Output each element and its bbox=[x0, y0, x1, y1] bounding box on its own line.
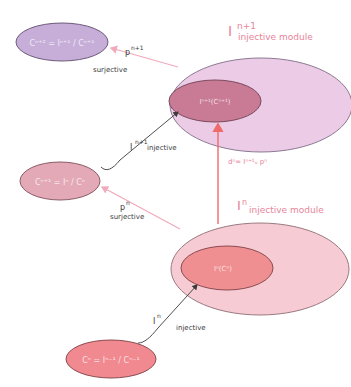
module-title-top-sub: injective module bbox=[238, 32, 313, 42]
i-n-plus-1-module: Iⁿ⁺¹(Cⁿ⁺¹) I n+1 injective module bbox=[169, 21, 351, 152]
c-n-plus-2-label: Cⁿ⁺² = Iⁿ⁺¹ / Cⁿ⁺¹ bbox=[30, 39, 95, 48]
c-n-plus-2-node: Cⁿ⁺² = Iⁿ⁺¹ / Cⁿ⁺¹ bbox=[16, 23, 108, 61]
i-n-plus-1-name: I bbox=[130, 143, 132, 152]
c-n-plus-1-label: Cⁿ⁺¹ = Iⁿ / Cⁿ bbox=[35, 178, 85, 187]
diagram-canvas: Iⁿ⁺¹(Cⁿ⁺¹) I n+1 injective module Iⁿ(Cⁿ)… bbox=[0, 0, 351, 387]
i-n-plus-1-sup: n+1 bbox=[135, 138, 148, 145]
c-n-node: Cⁿ = Iⁿ⁻¹ / Cⁿ⁻¹ bbox=[66, 340, 156, 378]
module-title-bottom-sup: n bbox=[242, 198, 247, 207]
edge-i-n-plus-1: I n+1 injective bbox=[101, 112, 178, 170]
p-n-kind: surjective bbox=[110, 213, 144, 221]
c-n-label: Cⁿ = Iⁿ⁻¹ / Cⁿ⁻¹ bbox=[82, 356, 140, 365]
p-n-name: p bbox=[120, 203, 125, 212]
i-n-module: Iⁿ(Cⁿ) I n injective module bbox=[171, 198, 349, 315]
p-n-sup: n bbox=[126, 199, 130, 206]
edge-p-n: p n surjective bbox=[102, 187, 180, 229]
p-n-plus-1-name: p bbox=[125, 48, 130, 57]
i-n-kind: injective bbox=[176, 324, 206, 332]
inner-label-bottom: Iⁿ(Cⁿ) bbox=[214, 265, 232, 273]
p-n-plus-1-sup: n+1 bbox=[131, 44, 144, 51]
i-n-plus-1-kind: injective bbox=[147, 144, 177, 152]
c-n-plus-1-node: Cⁿ⁺¹ = Iⁿ / Cⁿ bbox=[20, 162, 100, 200]
module-title-bottom-sub: injective module bbox=[249, 205, 324, 215]
arrow-p-n bbox=[102, 187, 180, 229]
module-title-bottom-base: I bbox=[237, 198, 241, 213]
d-n-label: dⁿ= Iⁿ⁺¹ₒ pⁿ bbox=[228, 158, 267, 166]
module-title-top-sup: n+1 bbox=[237, 21, 256, 31]
inner-label-top: Iⁿ⁺¹(Cⁿ⁺¹) bbox=[200, 98, 231, 106]
module-title-top-base: I bbox=[228, 23, 232, 39]
i-n-name: I bbox=[153, 317, 155, 326]
i-n-sup: n bbox=[157, 312, 161, 319]
arrow-p-n-plus-1 bbox=[111, 48, 178, 67]
p-n-plus-1-kind: surjective bbox=[93, 66, 127, 74]
